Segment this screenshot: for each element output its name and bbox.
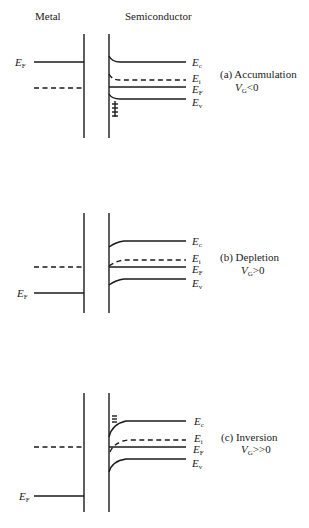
label-ef: EF [191,263,203,277]
metal-fermi-label: EF [16,287,28,301]
header-semiconductor: Semiconductor [125,10,192,22]
condition-depletion: VG>0 [241,264,265,278]
label-ec: Ec [191,56,202,70]
metal-fermi-label: EF [14,56,26,70]
header-metal: Metal [35,10,61,22]
band-ev [109,459,186,472]
panel-accumulation: EF Ec Ei EF Ev (a) Accumulation VG<0 [14,34,297,138]
band-ec [109,241,186,247]
metal-fermi-label: EF [18,490,30,504]
panel-depletion: EF Ec Ei EF Ev (b) Depletion VG>0 [16,213,279,313]
band-ev [109,94,186,99]
label-ev: Ev [191,277,203,291]
label-ec: Ec [191,235,202,249]
band-ei [110,440,186,452]
condition-accumulation: VG<0 [235,81,259,95]
label-ev: Ev [191,96,203,110]
panel-inversion: EF Ec Ei EF Ev (c) Inversion VG>>0 [18,393,278,512]
band-ei [109,260,186,266]
condition-inversion: VG>>0 [241,443,271,457]
caption-accumulation: (a) Accumulation [220,68,297,81]
band-ec [109,421,186,437]
label-ev: Ev [191,457,203,471]
band-ec [109,56,186,62]
mos-band-diagram: Metal Semiconductor EF Ec Ei EF Ev (a) A… [0,0,309,528]
accumulated-holes-icon [112,101,118,117]
band-ev [109,279,186,285]
band-ei [109,74,186,80]
inversion-electrons-icon [112,416,117,422]
caption-depletion: (b) Depletion [220,251,279,264]
label-ef: EF [191,83,203,97]
label-ec: Ec [193,415,204,429]
